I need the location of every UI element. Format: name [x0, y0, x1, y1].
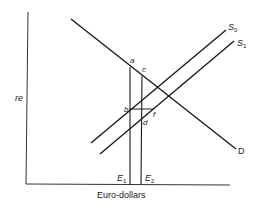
- s1-label: S1: [237, 38, 247, 49]
- e2-line: [141, 76, 142, 184]
- point-f-label: f: [153, 110, 156, 119]
- e2-label: E2: [145, 173, 155, 184]
- diagram-canvas: re Euro-dollars D S0 S1 E1 E2 a c b f d: [0, 0, 262, 208]
- y-axis: [26, 12, 28, 184]
- point-d-label: d: [143, 118, 148, 127]
- point-a-label: a: [130, 56, 135, 65]
- point-c-label: c: [142, 65, 146, 74]
- demand-label: D: [238, 146, 245, 156]
- demand-curve: [71, 19, 236, 149]
- x-axis: [26, 184, 230, 185]
- e1-label: E1: [117, 173, 127, 184]
- s0-label: S0: [228, 22, 238, 33]
- x-axis-label: Euro-dollars: [97, 190, 146, 200]
- y-axis-label: re: [15, 93, 23, 103]
- point-b-label: b: [124, 105, 129, 114]
